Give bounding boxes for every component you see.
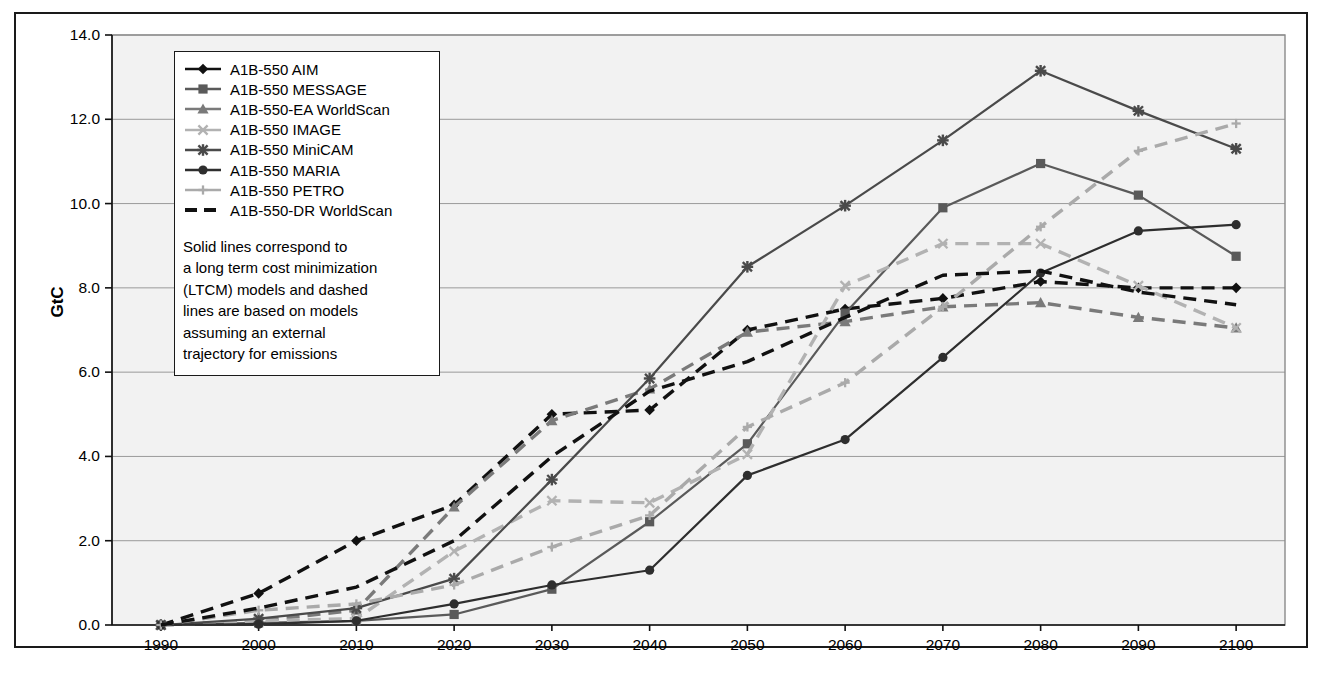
series-marker [743, 471, 752, 480]
legend-key-maria [183, 161, 223, 179]
series-marker [450, 599, 459, 608]
legend-key-petro [183, 181, 223, 199]
series-marker [938, 353, 947, 362]
series-marker [1232, 220, 1241, 229]
x-axis-tick-label: 2070 [908, 636, 978, 654]
legend-entry-label: A1B-550 PETRO [230, 183, 344, 198]
legend-entry-label: A1B-550 AIM [230, 62, 318, 77]
x-axis-tick-label: 2050 [712, 636, 782, 654]
figure-container: GtC 0.02.04.06.08.010.012.014.0 19902000… [0, 0, 1344, 684]
series-marker [1036, 159, 1045, 168]
legend-note-line: Solid lines correspond to [183, 236, 431, 258]
legend-entry: A1B-550-DR WorldScan [183, 200, 431, 220]
series-marker [938, 203, 947, 212]
legend-entry-label: A1B-550 MESSAGE [230, 82, 367, 97]
legend-key-message [183, 80, 223, 98]
legend-entry-label: A1B-550 MiniCAM [230, 142, 353, 157]
legend-note-line: lines are based on models [183, 300, 431, 322]
legend-key-marker [198, 85, 207, 94]
legend-entry: A1B-550-EA WorldScan [183, 99, 431, 119]
x-axis-tick-label: 2060 [810, 636, 880, 654]
x-axis-tick-label: 2000 [224, 636, 294, 654]
series-marker [1134, 191, 1143, 200]
y-axis-tick-label: 6.0 [46, 363, 100, 381]
legend-note-line: (LTCM) models and dashed [183, 279, 431, 301]
y-axis-tick-label: 14.0 [46, 26, 100, 44]
legend-key-aim [183, 60, 223, 78]
legend-note-text: Solid lines correspond toa long term cos… [183, 236, 431, 365]
series-marker [1134, 226, 1143, 235]
legend-key-ea-worldscan [183, 100, 223, 118]
series-marker [352, 616, 361, 625]
x-axis-tick-label: 2100 [1201, 636, 1271, 654]
legend-entry-label: A1B-550 MARIA [230, 163, 340, 178]
legend-key-image [183, 121, 223, 139]
legend-note-line: assuming an external [183, 322, 431, 344]
x-axis-tick-label: 2020 [419, 636, 489, 654]
legend-entry: A1B-550 IMAGE [183, 120, 431, 140]
chart-legend: A1B-550 AIMA1B-550 MESSAGEA1B-550-EA Wor… [174, 51, 440, 376]
legend-entry: A1B-550 MiniCAM [183, 140, 431, 160]
y-axis-title: GtC [48, 242, 68, 362]
legend-entry: A1B-550 PETRO [183, 180, 431, 200]
x-axis-tick-label: 2030 [517, 636, 587, 654]
legend-note-line: trajectory for emissions [183, 343, 431, 365]
series-marker [450, 610, 459, 619]
y-axis-tick-label: 4.0 [46, 447, 100, 465]
series-marker [547, 580, 556, 589]
series-marker [841, 435, 850, 444]
x-axis-tick-label: 2010 [321, 636, 391, 654]
series-marker [254, 620, 263, 629]
legend-key-minicam [183, 141, 223, 159]
legend-key-marker [198, 165, 207, 174]
x-axis-tick-label: 1990 [126, 636, 196, 654]
legend-entry-label: A1B-550-EA WorldScan [230, 102, 390, 117]
legend-entry-label: A1B-550-DR WorldScan [230, 203, 392, 218]
legend-entry-label: A1B-550 IMAGE [230, 122, 341, 137]
legend-entry-list: A1B-550 AIMA1B-550 MESSAGEA1B-550-EA Wor… [183, 59, 431, 221]
x-axis-tick-label: 2090 [1103, 636, 1173, 654]
y-axis-tick-label: 2.0 [46, 532, 100, 550]
x-axis-tick-label: 2080 [1006, 636, 1076, 654]
y-axis-tick-label: 8.0 [46, 279, 100, 297]
y-axis-tick-label: 10.0 [46, 195, 100, 213]
legend-note-line: a long term cost minimization [183, 257, 431, 279]
legend-entry: A1B-550 MESSAGE [183, 79, 431, 99]
y-axis-tick-label: 12.0 [46, 110, 100, 128]
series-marker [1232, 252, 1241, 261]
legend-entry: A1B-550 MARIA [183, 160, 431, 180]
x-axis-tick-label: 2040 [615, 636, 685, 654]
legend-key-marker [198, 64, 209, 75]
series-marker [645, 566, 654, 575]
legend-key-dr-worldscan [183, 201, 223, 219]
y-axis-tick-label: 0.0 [46, 616, 100, 634]
legend-entry: A1B-550 AIM [183, 59, 431, 79]
